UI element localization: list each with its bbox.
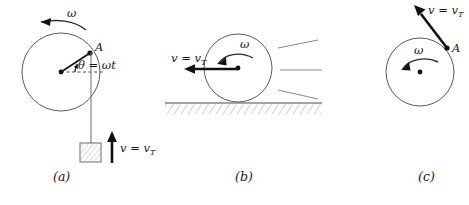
- panel-c-caption: (c): [418, 169, 435, 184]
- panel-b: ω v = vT (b): [165, 34, 322, 184]
- svg-text:v = vT: v = vT: [120, 141, 156, 157]
- panel-b-motion-speed-lines: [278, 40, 322, 99]
- panel-b-omega-label: ω: [240, 37, 250, 51]
- panel-a-velocity-arrow: [107, 131, 117, 163]
- panel-a-point-a-dot: [87, 50, 92, 55]
- panel-c-center-dot: [418, 70, 423, 75]
- panel-a-angle-label: θ = ωt: [78, 58, 116, 72]
- panel-b-omega-arc-arrow: [218, 54, 253, 65]
- panel-c: ω A v = vT (c): [386, 3, 464, 184]
- panel-c-point-a-dot: [444, 45, 449, 50]
- panel-a-velocity-label: v = vT: [120, 141, 156, 157]
- panel-b-center-dot: [236, 66, 241, 71]
- panel-a-hanging-block: [80, 143, 101, 162]
- svg-text:v = vT: v = vT: [171, 51, 207, 67]
- panel-c-point-a-label: A: [451, 41, 460, 55]
- panel-c-omega-label: ω: [414, 43, 424, 57]
- panel-a-omega-label: ω: [67, 6, 77, 20]
- panel-b-ground-hatching: [165, 104, 322, 115]
- svg-text:v = vT: v = vT: [428, 3, 464, 19]
- panel-a: ω A θ = ωt v = vT (a): [22, 6, 156, 184]
- panel-a-caption: (a): [53, 169, 70, 184]
- panel-a-center-dot: [59, 70, 64, 75]
- panel-b-caption: (b): [235, 169, 253, 184]
- panel-b-velocity-label: v = vT: [171, 51, 207, 67]
- physics-figure-rotating-wheel: ω A θ = ωt v = vT (a): [0, 0, 469, 205]
- panel-a-point-a-label: A: [94, 40, 103, 54]
- panel-a-omega-arc-arrow: [41, 18, 86, 30]
- panel-c-velocity-label: v = vT: [428, 3, 464, 19]
- panel-c-omega-arc-arrow: [402, 59, 438, 71]
- panel-b-velocity-arrow: [184, 64, 238, 74]
